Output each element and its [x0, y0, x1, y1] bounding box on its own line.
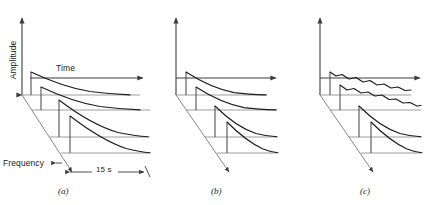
panel-a-caption: (a) — [58, 186, 69, 196]
amplitude-axis-label: Amplitude — [8, 30, 18, 90]
panel-b-band-4 — [217, 122, 278, 153]
panel-b-decay-2 — [196, 87, 276, 110]
panel-c-decay-3 — [359, 106, 421, 137]
panel-b-decay-3 — [215, 106, 277, 137]
panel-b-frequency-axis — [176, 95, 229, 172]
panel-a-band-1 — [22, 72, 143, 95]
panel-c-decay-1 — [330, 72, 411, 91]
panel-c-band-1 — [320, 72, 411, 95]
panel-a-band-4 — [61, 116, 150, 153]
panel-c-band-2 — [330, 85, 421, 110]
figure-root: Amplitude Time Frequency 15 s (a) (b) (c… — [0, 0, 427, 205]
time-axis-label: Time — [56, 63, 75, 73]
panel-b-decay-1 — [186, 72, 266, 95]
panel-c-band-4 — [361, 122, 422, 153]
panel-b-caption: (b) — [211, 186, 222, 196]
panel-a-band-2 — [32, 87, 150, 110]
panel-c-caption: (c) — [360, 186, 370, 196]
panel-a-dim-tick-right — [145, 166, 150, 177]
panel-c-band-3 — [349, 106, 421, 137]
panel-c-decay-2 — [340, 85, 421, 106]
panel-c-frequency-axis — [320, 95, 373, 172]
panel-b-band-3 — [205, 106, 277, 137]
panel-a-band-3 — [50, 100, 150, 137]
panel-a-decay-1 — [31, 72, 130, 95]
frequency-axis-label: Frequency — [3, 158, 44, 168]
panel-b-band-1 — [176, 72, 267, 95]
panel-a-decay-2 — [41, 87, 140, 110]
duration-annotation-label: 15 s — [96, 165, 112, 174]
waterfall-figure-svg — [0, 0, 427, 205]
panel-b — [176, 18, 278, 172]
panel-c — [320, 18, 422, 172]
panel-b-band-2 — [186, 87, 277, 110]
panel-a-decay-4 — [70, 116, 150, 153]
panel-a — [22, 18, 150, 177]
